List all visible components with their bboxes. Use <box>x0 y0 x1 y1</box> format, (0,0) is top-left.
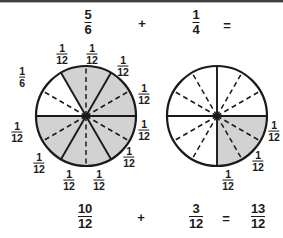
bottom-result-denominator: 12 <box>251 216 265 230</box>
bottom-right-denominator: 12 <box>189 216 203 230</box>
right-label-3: 1 12 <box>222 169 233 192</box>
fraction-numerator: 1 <box>255 150 261 161</box>
fraction-denominator: 12 <box>252 161 263 173</box>
bottom-plus-operator: + <box>137 210 145 225</box>
bottom-equals-operator: = <box>222 211 230 226</box>
right-label-2: 1 12 <box>252 150 263 173</box>
fraction-numerator: 1 <box>225 169 231 180</box>
bottom-left-fraction: 10 12 <box>78 202 92 230</box>
bottom-right-numerator: 3 <box>192 202 199 215</box>
bottom-result-numerator: 13 <box>251 202 265 215</box>
right-pie-center-dot <box>215 114 219 118</box>
right-label-1: 1 12 <box>268 120 279 143</box>
bottom-right-fraction: 3 12 <box>189 202 203 230</box>
right-pie-chart <box>0 0 283 238</box>
bottom-left-numerator: 10 <box>78 202 92 215</box>
fraction-numerator: 1 <box>271 120 277 131</box>
bottom-left-denominator: 12 <box>78 216 92 230</box>
fraction-denominator: 12 <box>222 180 233 192</box>
bottom-result-fraction: 13 12 <box>251 202 265 230</box>
fraction-addition-diagram: 5 6 + 1 4 = <box>0 0 283 238</box>
fraction-denominator: 12 <box>268 131 279 143</box>
